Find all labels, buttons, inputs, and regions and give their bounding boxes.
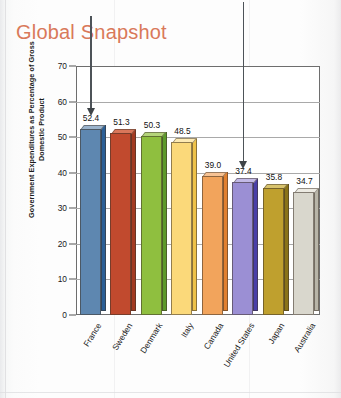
bar-value-label: 48.5 xyxy=(174,126,190,136)
bar-value-label: 50.3 xyxy=(144,120,160,130)
bar-front-face xyxy=(202,176,223,315)
chart-page: Global Snapshot Government Expenditures … xyxy=(0,0,341,398)
bar-side-face xyxy=(192,138,197,311)
x-tick-label: Canada xyxy=(202,321,226,351)
x-tick-label: Japan xyxy=(266,321,287,346)
bar-value-label: 39.0 xyxy=(205,160,221,170)
bar-front-face xyxy=(141,136,162,315)
x-tick-label: Italy xyxy=(179,321,196,339)
bar-side-face xyxy=(253,178,258,311)
bar-front-face xyxy=(110,133,131,315)
plot-area: 010203040506070 52.4France51.3Sweden50.3… xyxy=(76,66,320,315)
x-tick-label: France xyxy=(81,321,103,348)
bar-front-face xyxy=(263,188,284,315)
y-axis-title: Government Expenditures as Percentage of… xyxy=(27,30,46,230)
y-tick-label: 30 xyxy=(58,203,67,213)
y-tick-mark xyxy=(69,315,76,316)
x-tick-label: Australia xyxy=(291,321,317,354)
y-tick-label: 20 xyxy=(58,239,67,249)
y-tick-mark xyxy=(69,101,76,102)
annotation-arrow-united-states xyxy=(243,2,244,162)
bar: 51.3Sweden xyxy=(110,133,131,315)
bar-side-face xyxy=(284,184,289,311)
bar-side-face xyxy=(131,129,136,311)
y-tick-label: 60 xyxy=(58,97,67,107)
bar-front-face xyxy=(80,129,101,315)
y-tick-mark xyxy=(69,172,76,173)
scan-artifact-line xyxy=(0,392,341,393)
annotation-arrow-france xyxy=(90,16,91,109)
bar-front-face xyxy=(293,192,314,315)
y-tick-mark xyxy=(69,208,76,209)
bar-side-face xyxy=(162,132,167,311)
scan-artifact-line xyxy=(5,0,6,398)
bar-side-face xyxy=(223,172,228,311)
bar-side-face xyxy=(101,125,106,311)
bar-series: 52.4France51.3Sweden50.3Denmark48.5Italy… xyxy=(76,66,320,315)
y-tick-mark xyxy=(69,66,76,67)
y-tick-label: 0 xyxy=(62,310,67,320)
y-tick-mark xyxy=(69,137,76,138)
bar-value-label: 51.3 xyxy=(113,117,129,127)
bar: 48.5Italy xyxy=(171,142,192,315)
bar: 50.3Denmark xyxy=(141,136,162,315)
bar-value-label: 35.8 xyxy=(266,172,282,182)
bar-value-label: 34.7 xyxy=(296,176,312,186)
bar: 35.8Japan xyxy=(263,188,284,315)
y-tick-label: 70 xyxy=(58,61,67,71)
bar: 39.0Canada xyxy=(202,176,223,315)
x-tick-label: United States xyxy=(221,321,256,369)
bar-front-face xyxy=(232,182,253,315)
x-tick-label: Denmark xyxy=(138,321,164,355)
bar-side-face xyxy=(314,188,319,311)
bar-front-face xyxy=(171,142,192,315)
y-tick-label: 50 xyxy=(58,132,67,142)
y-tick-label: 10 xyxy=(58,274,67,284)
y-tick-mark xyxy=(69,279,76,280)
bar: 37.4United States xyxy=(232,182,253,315)
y-tick-mark xyxy=(69,243,76,244)
y-tick-label: 40 xyxy=(58,168,67,178)
bar: 34.7Australia xyxy=(293,192,314,315)
bar: 52.4France xyxy=(80,129,101,315)
